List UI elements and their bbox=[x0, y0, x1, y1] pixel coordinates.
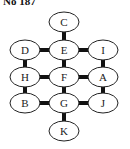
node-graph: CDEIHFABGJK bbox=[0, 0, 130, 149]
node-k: K bbox=[49, 121, 79, 141]
node-i: I bbox=[88, 40, 118, 60]
node-d: D bbox=[10, 40, 40, 60]
node-f: F bbox=[49, 67, 79, 87]
node-label: K bbox=[60, 125, 68, 137]
node-label: I bbox=[101, 44, 105, 56]
node-label: D bbox=[21, 44, 29, 56]
node-label: E bbox=[61, 44, 68, 56]
node-label: C bbox=[60, 16, 67, 28]
node-label: B bbox=[21, 97, 28, 109]
node-label: G bbox=[60, 97, 68, 109]
node-c: C bbox=[49, 12, 79, 32]
node-e: E bbox=[49, 40, 79, 60]
node-label: J bbox=[101, 97, 106, 109]
node-j: J bbox=[88, 93, 118, 113]
node-h: H bbox=[10, 67, 40, 87]
node-label: F bbox=[61, 71, 67, 83]
node-g: G bbox=[49, 93, 79, 113]
node-label: H bbox=[21, 71, 29, 83]
node-label: A bbox=[99, 71, 107, 83]
node-a: A bbox=[88, 67, 118, 87]
node-b: B bbox=[10, 93, 40, 113]
